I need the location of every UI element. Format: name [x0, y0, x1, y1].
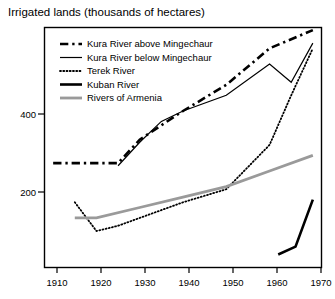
x-tick-label-1960: 1960: [266, 277, 287, 288]
x-tick-label-1910: 1910: [46, 277, 67, 288]
y-tick-label-200: 200: [20, 187, 36, 198]
x-axis-ticks: [57, 268, 321, 274]
y-axis-ticks: [38, 114, 45, 192]
x-tick-label-1920: 1920: [90, 277, 111, 288]
x-tick-label-1950: 1950: [222, 277, 243, 288]
plot-canvas: 400 200 1910 1920 1930 1940 1950 1960 19…: [0, 0, 335, 299]
legend-label-3: Kuban River: [87, 79, 139, 90]
x-tick-label-1940: 1940: [178, 277, 199, 288]
legend-label-1: Kura River below Mingechaur: [87, 52, 212, 63]
chart-figure: Irrigated lands (thousands of hectares) …: [0, 0, 335, 299]
x-tick-label-1970: 1970: [310, 277, 331, 288]
y-tick-label-400: 400: [20, 109, 36, 120]
plot-frame: [45, 28, 322, 268]
legend-label-0: Kura River above Mingechaur: [87, 38, 213, 49]
legend-label-4: Rivers of Armenia: [87, 92, 163, 103]
x-tick-label-1930: 1930: [134, 277, 155, 288]
legend-label-2: Terek River: [87, 65, 135, 76]
